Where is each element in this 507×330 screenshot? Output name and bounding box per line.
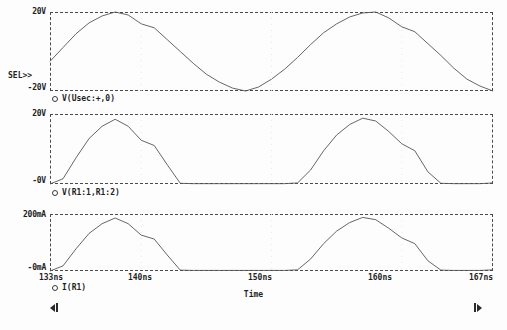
x-axis-title: Time — [0, 290, 507, 299]
scroll-left-button[interactable] — [50, 303, 58, 312]
scroll-right-button[interactable] — [474, 303, 482, 312]
x-tick-label-0: 133ns — [31, 273, 71, 282]
x-tick-label-3: 160ns — [360, 273, 400, 282]
legend-label-panel1: V(Usec:+,0) — [62, 94, 115, 103]
legend-panel2[interactable]: V(R1:1,R1:2) — [52, 188, 120, 197]
plot-panel-voltage-secondary[interactable]: 20V -20V SEL>> V(Usec:+,0) — [0, 0, 507, 105]
legend-label-panel2: V(R1:1,R1:2) — [62, 188, 120, 197]
legend-marker-icon — [52, 190, 58, 196]
x-tick-label-4: 167ns — [461, 273, 501, 282]
scroll-bar-end-icon — [474, 303, 476, 312]
plot-panel-current-r1[interactable]: 200mA -0mA 133ns 140ns 150ns 160ns 167ns… — [0, 205, 507, 300]
legend-marker-icon — [52, 96, 58, 102]
triangle-right-icon — [477, 304, 482, 312]
plot-panel-voltage-r1[interactable]: 20V -0V V(R1:1,R1:2) — [0, 105, 507, 205]
waveform-panel1 — [0, 0, 507, 105]
probe-window: 20V -20V SEL>> V(Usec:+,0) 20V -0V V(R1:… — [0, 0, 507, 330]
legend-panel1[interactable]: V(Usec:+,0) — [52, 94, 115, 103]
x-tick-label-1: 140ns — [120, 273, 160, 282]
triangle-left-icon — [50, 304, 55, 312]
x-tick-label-2: 150ns — [240, 273, 280, 282]
scroll-bar-end-icon — [56, 303, 58, 312]
